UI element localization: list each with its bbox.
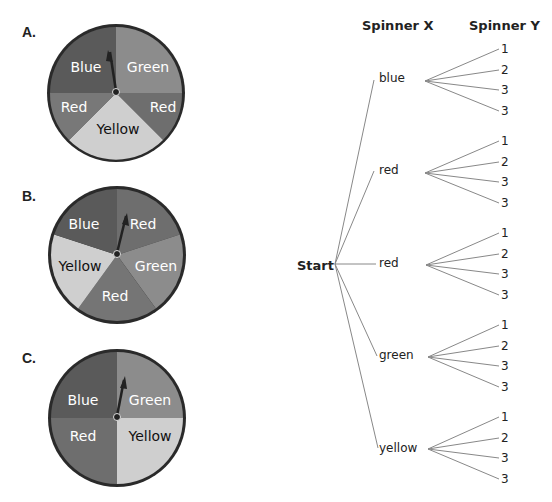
header-spinner-x: Spinner X — [362, 18, 433, 33]
outcome: 1 — [501, 134, 509, 148]
spinner-a-text-red-right: Red — [150, 99, 177, 115]
outcome: 2 — [501, 431, 509, 445]
spinner-b-text-red-bottom: Red — [102, 288, 129, 304]
spinner-b-text-blue: Blue — [69, 216, 100, 232]
outcome: 2 — [501, 247, 509, 261]
spinner-c-text-red: Red — [70, 428, 97, 444]
outcome: 3 — [501, 288, 509, 302]
branch-green: green — [379, 348, 414, 362]
spinner-b: Blue Red Green Red Yellow — [48, 186, 186, 324]
branch-red-2: red — [379, 256, 399, 270]
branch-blue: blue — [379, 71, 405, 85]
outcome: 1 — [501, 42, 509, 56]
outcome: 2 — [501, 63, 509, 77]
outcome: 3 — [501, 451, 509, 465]
outcome: 3 — [501, 267, 509, 281]
spinner-a: Blue Green Red Yellow Red — [47, 24, 185, 162]
outcomes: 1 2 3 3 1 2 3 3 1 2 3 3 1 2 3 3 1 2 3 3 — [501, 42, 509, 486]
spinner-c-text-green: Green — [129, 392, 171, 408]
outcome: 1 — [501, 410, 509, 424]
spinner-a-text-green: Green — [127, 59, 169, 75]
figure: Blue Green Red Yellow Red Blue Red Green… — [0, 0, 552, 502]
spinner-a-text-yellow: Yellow — [95, 121, 139, 137]
tree-diagram: Spinner X Spinner Y Start blue red red g… — [297, 18, 540, 486]
outcome: 3 — [501, 359, 509, 373]
outcome: 3 — [501, 380, 509, 394]
spinner-c-green-section — [117, 352, 183, 418]
outcome: 2 — [501, 155, 509, 169]
outcome: 1 — [501, 318, 509, 332]
outcome: 1 — [501, 226, 509, 240]
outcome: 2 — [501, 339, 509, 353]
spinner-a-text-red-left: Red — [61, 99, 88, 115]
spinner-b-text-red-top: Red — [130, 216, 157, 232]
outcome: 3 — [501, 175, 509, 189]
outcome: 3 — [501, 196, 509, 210]
tree-root-start: Start — [297, 258, 334, 273]
spinner-b-text-green: Green — [135, 258, 177, 274]
spinner-a-text-blue: Blue — [71, 59, 102, 75]
outcome: 3 — [501, 472, 509, 486]
branch-yellow: yellow — [379, 441, 417, 455]
spinner-c-blue-section — [51, 352, 117, 418]
outcome: 3 — [501, 83, 509, 97]
header-spinner-y: Spinner Y — [469, 18, 540, 33]
root-branch-lines — [335, 80, 378, 448]
spinner-c: Blue Green Red Yellow — [48, 349, 186, 487]
outcome: 3 — [501, 104, 509, 118]
spinner-b-text-yellow: Yellow — [57, 258, 101, 274]
spinner-c-text-blue: Blue — [68, 392, 99, 408]
leaf-branch-lines — [425, 49, 499, 479]
branch-red-1: red — [379, 163, 399, 177]
spinner-c-text-yellow: Yellow — [127, 428, 171, 444]
